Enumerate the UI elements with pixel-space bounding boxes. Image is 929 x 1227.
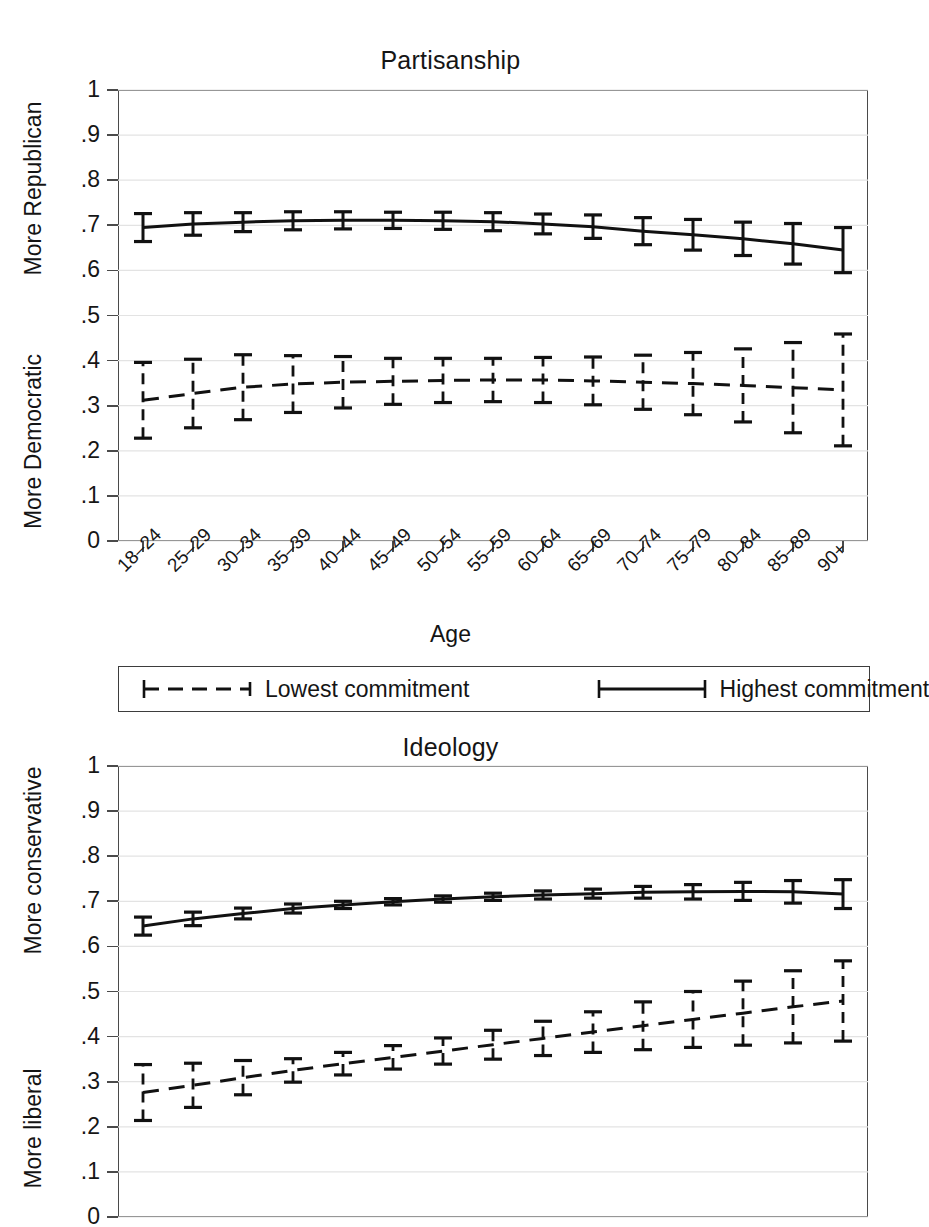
y-tick-label: .2 (40, 439, 100, 462)
y-tick-label: .8 (40, 168, 100, 191)
y-tick-label: .6 (40, 258, 100, 281)
y-tick-mark (107, 900, 118, 902)
solid-line-key-icon (596, 678, 708, 700)
plot-area-partisanship (118, 90, 868, 541)
y-tick-label: .1 (40, 484, 100, 507)
y-tick-label: .9 (40, 799, 100, 822)
y-tick-label: 1 (40, 754, 100, 777)
y-tick-mark (107, 270, 118, 272)
y-tick-label: .3 (40, 1070, 100, 1093)
y-tick-mark (107, 405, 118, 407)
y-tick-mark (107, 179, 118, 181)
y-tick-label: .5 (40, 304, 100, 327)
y-tick-label: .9 (40, 123, 100, 146)
y-tick-label: .4 (40, 349, 100, 372)
y-tick-mark (107, 540, 118, 542)
y-tick-label: .3 (40, 394, 100, 417)
y-tick-label: .1 (40, 1160, 100, 1183)
legend-label-lowest: Lowest commitment (265, 676, 470, 703)
chart-panel-ideology: Ideology More conservative More liberal … (0, 725, 901, 1227)
y-tick-mark (107, 450, 118, 452)
chart-panel-partisanship: Partisanship More Republican More Democr… (0, 0, 901, 650)
legend-label-highest: Highest commitment (720, 676, 929, 703)
dashed-line-key-icon (141, 678, 253, 700)
x-axis-label-age: Age (0, 621, 901, 648)
y-tick-mark (107, 1216, 118, 1218)
legend: Lowest commitment Highest commitment (118, 666, 870, 712)
y-tick-label: .7 (40, 889, 100, 912)
plot-svg-ideology (118, 766, 868, 1217)
y-tick-mark (107, 89, 118, 91)
y-tick-mark (107, 495, 118, 497)
plot-area-ideology (118, 766, 868, 1217)
y-tick-mark (107, 224, 118, 226)
y-tick-label: .6 (40, 934, 100, 957)
legend-entry-lowest[interactable]: Lowest commitment (141, 676, 470, 703)
y-tick-mark (107, 1126, 118, 1128)
y-tick-mark (107, 1171, 118, 1173)
y-tick-mark (107, 315, 118, 317)
y-tick-mark (107, 1081, 118, 1083)
chart-title-partisanship: Partisanship (0, 46, 901, 75)
legend-entry-highest[interactable]: Highest commitment (596, 676, 929, 703)
y-tick-label: .5 (40, 980, 100, 1003)
y-tick-label: .7 (40, 213, 100, 236)
y-tick-mark (107, 134, 118, 136)
y-tick-mark (107, 855, 118, 857)
y-tick-mark (107, 1036, 118, 1038)
y-tick-label: 0 (40, 1205, 100, 1227)
y-tick-label: .8 (40, 844, 100, 867)
x-tick-label: 90+ (813, 538, 851, 576)
y-tick-label: .4 (40, 1025, 100, 1048)
plot-svg-partisanship (118, 90, 868, 541)
y-tick-label: .2 (40, 1115, 100, 1138)
y-tick-label: 1 (40, 78, 100, 101)
y-tick-mark (107, 360, 118, 362)
chart-title-ideology: Ideology (0, 733, 901, 762)
y-tick-mark (107, 991, 118, 993)
y-tick-label: 0 (40, 529, 100, 552)
y-tick-mark (107, 765, 118, 767)
y-tick-mark (107, 810, 118, 812)
y-tick-mark (107, 946, 118, 948)
